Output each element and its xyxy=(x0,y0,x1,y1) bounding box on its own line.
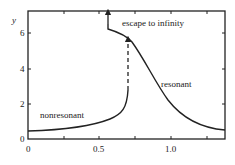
resonant-label: resonant xyxy=(161,80,192,89)
escape-label: escape to infinity xyxy=(122,19,184,28)
y-tick-0: 0 xyxy=(20,135,25,144)
x-ticks xyxy=(64,11,207,139)
x-tick-1.0: 1.0 xyxy=(165,145,176,154)
nonresonant-label: nonresonant xyxy=(40,111,84,120)
y-axis-label: y xyxy=(12,16,16,25)
chart-plot xyxy=(0,0,235,165)
y-tick-6: 6 xyxy=(20,29,25,38)
y-ticks xyxy=(28,33,225,104)
resonant-curve xyxy=(108,24,225,130)
y-tick-4: 4 xyxy=(20,65,25,74)
y-tick-2: 2 xyxy=(20,100,25,109)
x-tick-0: 0 xyxy=(26,145,31,154)
x-tick-0.5: 0.5 xyxy=(93,145,104,154)
